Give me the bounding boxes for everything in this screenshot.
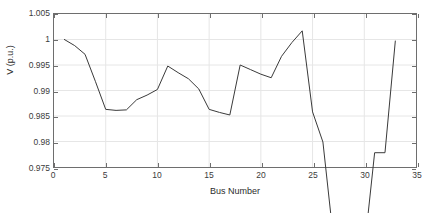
y-tick-label: 0.975 <box>29 163 50 173</box>
y-tick-mark <box>412 66 416 67</box>
y-tick-mark <box>54 40 58 41</box>
voltage-profile-chart: V (p.u.) 0.9750.980.9850.990.99511.005 0… <box>0 0 433 213</box>
y-axis-tick-labels: 0.9750.980.9850.990.99511.005 <box>10 13 50 168</box>
y-tick-mark <box>412 14 416 15</box>
x-tick-label: 20 <box>256 170 265 180</box>
x-tick-mark <box>158 14 159 18</box>
y-tick-label: 1 <box>45 34 50 44</box>
x-tick-label: 25 <box>308 170 317 180</box>
x-tick-mark <box>418 14 419 18</box>
x-tick-label: 15 <box>204 170 213 180</box>
x-tick-mark <box>418 163 419 167</box>
y-tick-mark <box>54 117 58 118</box>
x-tick-label: 5 <box>103 170 108 180</box>
y-tick-mark <box>412 117 416 118</box>
y-tick-mark <box>54 92 58 93</box>
x-tick-mark <box>314 14 315 18</box>
x-tick-mark <box>106 163 107 167</box>
y-tick-label: 0.985 <box>29 111 50 121</box>
x-tick-mark <box>262 14 263 18</box>
y-tick-mark <box>54 143 58 144</box>
x-tick-label: 30 <box>360 170 369 180</box>
x-tick-mark <box>106 14 107 18</box>
y-tick-label: 0.995 <box>29 60 50 70</box>
x-tick-label: 10 <box>152 170 161 180</box>
y-tick-mark <box>412 40 416 41</box>
x-axis-label: Bus Number <box>53 186 417 196</box>
y-tick-mark <box>412 143 416 144</box>
plot-area <box>53 13 417 168</box>
voltage-series-line <box>54 14 416 167</box>
x-tick-mark <box>262 163 263 167</box>
x-axis-tick-labels: 05101520253035 <box>53 170 417 184</box>
x-tick-mark <box>366 163 367 167</box>
x-tick-label: 35 <box>412 170 421 180</box>
y-tick-mark <box>54 14 58 15</box>
x-tick-mark <box>210 14 211 18</box>
y-tick-label: 0.99 <box>33 86 50 96</box>
y-tick-label: 1.005 <box>29 8 50 18</box>
x-tick-mark <box>366 14 367 18</box>
x-tick-label: 0 <box>51 170 56 180</box>
y-tick-mark <box>54 66 58 67</box>
y-tick-mark <box>412 92 416 93</box>
x-tick-mark <box>54 163 55 167</box>
x-tick-mark <box>210 163 211 167</box>
y-tick-label: 0.98 <box>33 137 50 147</box>
x-tick-mark <box>314 163 315 167</box>
x-tick-mark <box>158 163 159 167</box>
